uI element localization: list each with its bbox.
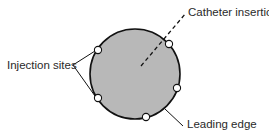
injection-site-marker	[94, 94, 101, 101]
injection-site-marker	[142, 113, 149, 120]
leading-edge-label: Leading edge	[187, 119, 257, 131]
injection-site-marker	[173, 84, 180, 91]
injection-site-marker	[165, 40, 172, 47]
leading-edge-leader	[165, 109, 183, 126]
diagram-canvas: Catheter insertion Injection sites Leadi…	[0, 0, 269, 138]
catheter-insertion-label: Catheter insertion	[188, 7, 269, 19]
injection-site-marker	[94, 46, 101, 53]
injection-sites-label: Injection sites	[7, 60, 77, 72]
